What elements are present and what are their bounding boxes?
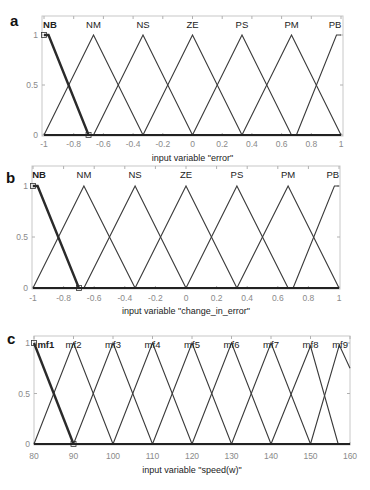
x-tick-label: -0.4 bbox=[126, 139, 141, 149]
x-tick-label: 0.8 bbox=[302, 293, 314, 303]
x-tick-label: 120 bbox=[185, 451, 199, 461]
x-tick-label: 0 bbox=[184, 293, 189, 303]
mf-label-ps: PS bbox=[231, 169, 244, 180]
mf-label-ns: NS bbox=[136, 19, 149, 30]
y-tick-label: 0 bbox=[23, 283, 28, 293]
x-tick-label: -0.6 bbox=[87, 293, 102, 303]
mf-label-ns: NS bbox=[128, 169, 141, 180]
x-tick-label: 160 bbox=[343, 451, 357, 461]
chart-panel-b: b-1-0.8-0.6-0.4-0.200.20.40.60.8100.51NM… bbox=[6, 166, 342, 316]
x-tick-label: -0.8 bbox=[66, 139, 81, 149]
x-tick-label: 0.8 bbox=[305, 139, 317, 149]
mf-label-pm: PM bbox=[284, 19, 298, 30]
panel-letter: a bbox=[10, 12, 19, 29]
y-tick-label: 1 bbox=[33, 30, 38, 40]
mf-label-mf3: mf3 bbox=[105, 339, 121, 350]
x-tick-label: 0.4 bbox=[241, 293, 253, 303]
x-tick-label: 0.4 bbox=[246, 139, 258, 149]
mf-label-ze: ZE bbox=[180, 169, 192, 180]
chart-panel-a: a-1-0.8-0.6-0.4-0.200.20.40.60.8100.51NM… bbox=[10, 12, 344, 163]
x-tick-label: 0 bbox=[190, 139, 195, 149]
x-tick-label: 0.2 bbox=[211, 293, 223, 303]
x-tick-label: -0.2 bbox=[148, 293, 163, 303]
x-tick-label: -0.8 bbox=[56, 293, 71, 303]
y-tick-label: 0.5 bbox=[16, 232, 28, 242]
mf-label-mf9: mf9 bbox=[332, 339, 348, 350]
mf-label-nb: NB bbox=[43, 19, 57, 30]
x-tick-label: 90 bbox=[69, 451, 79, 461]
mf-label-pb: PB bbox=[329, 19, 342, 30]
y-tick-label: 0.5 bbox=[26, 80, 38, 90]
x-tick-label: 0.6 bbox=[276, 139, 288, 149]
mf-label-ps: PS bbox=[236, 19, 249, 30]
x-tick-label: 100 bbox=[106, 451, 120, 461]
y-tick-label: 0.5 bbox=[18, 389, 30, 399]
x-tick-label: 140 bbox=[264, 451, 278, 461]
figure: a-1-0.8-0.6-0.4-0.200.20.40.60.8100.51NM… bbox=[0, 0, 370, 490]
x-tick-label: -0.6 bbox=[96, 139, 111, 149]
x-tick-label: -1 bbox=[40, 139, 48, 149]
mf-label-mf8: mf8 bbox=[303, 339, 319, 350]
mf-label-mf2: mf2 bbox=[66, 339, 82, 350]
x-tick-label: -0.2 bbox=[155, 139, 170, 149]
mf-label-pm: PM bbox=[281, 169, 295, 180]
y-tick-label: 1 bbox=[23, 181, 28, 191]
mf-label-mf4: mf4 bbox=[145, 339, 161, 350]
mf-label-mf1: mf1 bbox=[37, 339, 55, 350]
x-tick-label: 1 bbox=[337, 293, 342, 303]
x-tick-label: 0.6 bbox=[272, 293, 284, 303]
mf-label-nm: NM bbox=[86, 19, 101, 30]
x-tick-label: 80 bbox=[29, 451, 39, 461]
mf-label-mf7: mf7 bbox=[263, 339, 279, 350]
mf-label-nb: NB bbox=[32, 169, 46, 180]
x-tick-label: -0.4 bbox=[117, 293, 132, 303]
y-tick-label: 0 bbox=[33, 130, 38, 140]
x-axis-label: input variable "change_in_error" bbox=[122, 306, 250, 316]
x-tick-label: 1 bbox=[339, 139, 344, 149]
y-tick-label: 1 bbox=[25, 338, 30, 348]
plot-frame bbox=[34, 336, 350, 445]
x-tick-label: 150 bbox=[303, 451, 317, 461]
x-axis-label: input variable "error" bbox=[152, 153, 233, 163]
panel-letter: b bbox=[6, 169, 15, 186]
x-tick-label: 0.2 bbox=[216, 139, 228, 149]
mf-label-mf6: mf6 bbox=[224, 339, 240, 350]
x-axis-label: input variable "speed(w)" bbox=[142, 465, 241, 475]
plot-frame bbox=[32, 166, 340, 289]
panel-letter: c bbox=[7, 330, 15, 347]
x-tick-label: 110 bbox=[146, 451, 160, 461]
mf-label-nm: NM bbox=[77, 169, 92, 180]
y-tick-label: 0 bbox=[25, 439, 30, 449]
x-tick-label: 130 bbox=[224, 451, 238, 461]
mf-label-mf5: mf5 bbox=[184, 339, 200, 350]
mf-label-ze: ZE bbox=[186, 19, 198, 30]
mf-label-pb: PB bbox=[327, 169, 340, 180]
chart-panel-c: c809010011012013014015016000.51mf2mf3mf4… bbox=[7, 330, 357, 475]
x-tick-label: -1 bbox=[29, 293, 37, 303]
